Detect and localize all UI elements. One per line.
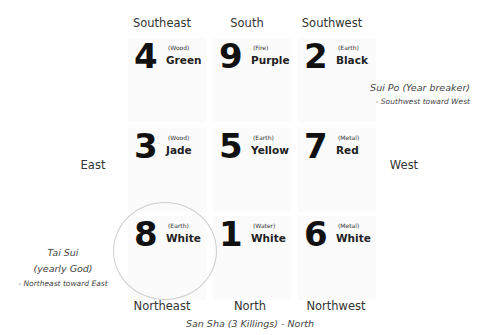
cell-northwest: 6 (Metal) White [298, 216, 376, 300]
cell-east: 3 (Wood) Jade [128, 128, 206, 212]
star-number: 5 [219, 126, 243, 166]
star-color: Black [336, 54, 368, 66]
star-element: (Wood) [168, 44, 189, 51]
label-south: South [230, 16, 263, 30]
cell-west: 7 (Metal) Red [298, 128, 376, 212]
star-number: 9 [219, 36, 243, 76]
san-sha-note: San Sha (3 Killings) - North [186, 318, 314, 329]
star-number: 6 [304, 214, 328, 254]
star-number: 3 [134, 126, 158, 166]
star-element: (Fire) [253, 44, 268, 51]
tai-sui-circle [113, 202, 217, 300]
cell-south: 9 (Fire) Purple [213, 38, 291, 122]
star-color: Red [336, 144, 359, 156]
cell-center: 5 (Earth) Yellow [213, 128, 291, 212]
cell-southwest: 2 (Earth) Black [298, 38, 376, 122]
star-color: White [336, 232, 371, 244]
star-number: 1 [219, 214, 243, 254]
label-west: West [390, 158, 418, 172]
label-northwest: Northwest [306, 299, 365, 313]
star-number: 7 [304, 126, 328, 166]
star-element: (Earth) [253, 134, 274, 141]
cell-southeast: 4 (Wood) Green [128, 38, 206, 122]
star-color: White [251, 232, 286, 244]
star-color: Jade [166, 144, 192, 156]
star-element: (Wood) [168, 134, 189, 141]
star-color: Purple [251, 54, 290, 66]
sui-po-title: Sui Po (Year breaker) [370, 82, 470, 93]
label-north: North [234, 299, 266, 313]
cell-north: 1 (Water) White [213, 216, 291, 300]
label-northeast: Northeast [134, 299, 191, 313]
star-number: 4 [134, 36, 158, 76]
tai-sui-title: Tai Sui [48, 247, 79, 258]
star-element: (Metal) [338, 134, 359, 141]
star-element: (Water) [253, 222, 275, 229]
tai-sui-subtitle: (yearly God) [33, 263, 92, 274]
tai-sui-detail: - Northeast toward East [18, 279, 107, 288]
label-southwest: Southwest [302, 16, 362, 30]
star-element: (Metal) [338, 222, 359, 229]
star-element: (Earth) [338, 44, 359, 51]
label-east: East [81, 158, 106, 172]
star-color: Green [166, 54, 202, 66]
star-number: 2 [304, 36, 328, 76]
sui-po-detail: - Southwest toward West [376, 97, 470, 106]
label-southeast: Southeast [133, 16, 191, 30]
star-color: Yellow [251, 144, 289, 156]
